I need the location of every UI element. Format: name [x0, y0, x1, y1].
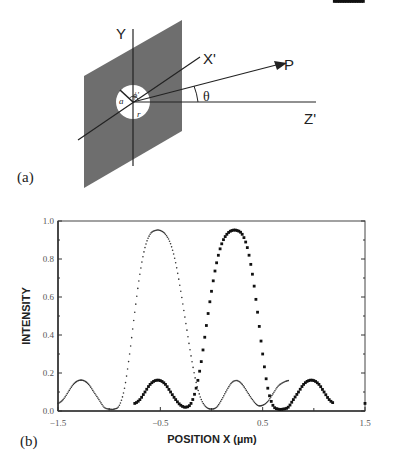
thin-series-point: [166, 235, 168, 237]
thick-series-point: [168, 388, 171, 391]
thin-series-point: [126, 375, 128, 377]
thin-series-point: [128, 361, 130, 363]
thin-series-point: [180, 291, 182, 293]
thick-series-point: [220, 242, 223, 245]
thick-series-point: [290, 401, 293, 404]
thin-series-point: [145, 243, 147, 245]
thin-series-point: [287, 380, 289, 382]
thick-series-point: [263, 365, 266, 368]
thick-series-point: [270, 400, 273, 403]
thin-series-point: [248, 393, 250, 395]
x-tick-label: −1.5: [50, 418, 67, 428]
thin-series-point: [168, 238, 170, 240]
thin-series-point: [147, 237, 149, 239]
thin-series-point: [135, 303, 137, 305]
thin-series-point: [218, 404, 220, 406]
thin-series-point: [203, 403, 205, 405]
thin-series-point: [146, 240, 148, 242]
thick-series-point: [190, 402, 193, 405]
x-tick-label: 1.5: [359, 418, 371, 428]
thin-series-point: [136, 295, 138, 297]
thick-series-point: [243, 236, 246, 239]
thin-series-point: [182, 303, 184, 305]
thin-series-point: [68, 390, 70, 392]
thick-series-point: [258, 325, 261, 328]
tick-labels: 0.00.20.40.60.81.0−1.5−0.50.51.5: [43, 216, 371, 428]
thin-series-point: [95, 394, 97, 396]
thick-series-point: [253, 285, 256, 288]
thin-series-point: [89, 385, 91, 387]
thin-series-point: [189, 349, 191, 351]
thick-series-point: [319, 385, 322, 388]
thin-series-point: [254, 401, 256, 403]
thick-series-point: [144, 391, 147, 394]
thin-series-point: [141, 261, 143, 263]
thick-series-point: [140, 396, 143, 399]
r-label: r: [137, 109, 141, 119]
thick-series-point: [323, 391, 326, 394]
x-tick-label: 0.5: [257, 418, 269, 428]
thin-series-point: [170, 243, 172, 245]
thick-series-point: [295, 393, 298, 396]
thick-series-point: [364, 402, 367, 405]
thick-series-point: [215, 261, 218, 264]
thin-series-point: [252, 399, 254, 401]
thick-series-point: [244, 241, 247, 244]
thin-series-point: [229, 384, 231, 386]
x-prime-label: X': [203, 50, 216, 67]
thin-series-point: [140, 267, 142, 269]
thin-series-point: [173, 253, 175, 255]
thin-series-point: [90, 386, 92, 388]
thin-series-point: [244, 388, 246, 390]
thick-series-point: [297, 391, 300, 394]
thin-series-point: [200, 399, 202, 401]
thin-series-point: [179, 284, 181, 286]
thin-series-point: [227, 388, 229, 390]
thin-series-point: [133, 320, 135, 322]
thin-series-point: [63, 398, 65, 400]
thin-series-point: [186, 329, 188, 331]
thin-series-point: [242, 385, 244, 387]
thin-series-point: [65, 394, 67, 396]
thin-series-point: [187, 336, 189, 338]
thin-series-point: [125, 382, 127, 384]
thick-series-point: [249, 263, 252, 266]
thin-series-point: [185, 323, 187, 325]
thick-series-point: [246, 246, 249, 249]
y-tick-label: 0.6: [43, 292, 55, 302]
thick-series-point: [208, 300, 211, 303]
thick-series-point: [205, 324, 208, 327]
thin-series-point: [219, 402, 221, 404]
thin-series-point: [251, 397, 253, 399]
thin-series-point: [220, 401, 222, 403]
thick-series-point: [289, 404, 292, 407]
thick-series-point: [362, 0, 365, 3]
thin-series-point: [269, 398, 271, 400]
thick-series-point: [265, 377, 268, 380]
thin-series-point: [98, 399, 100, 401]
thin-series-point: [176, 267, 178, 269]
thick-series-point: [324, 393, 327, 396]
thin-series-point: [94, 393, 96, 395]
thin-series-point: [93, 391, 95, 393]
thick-series-point: [261, 353, 264, 356]
thin-series-point: [99, 400, 101, 402]
thin-series-point: [101, 404, 103, 406]
thin-series-point: [177, 273, 179, 275]
y-tick-label: 0.4: [43, 330, 55, 340]
thin-series-point: [183, 310, 185, 312]
thick-series-point: [299, 388, 302, 391]
thin-series-point: [121, 399, 123, 401]
thick-series-point: [214, 270, 217, 273]
thick-series-point: [248, 254, 251, 257]
thin-series-point: [92, 390, 94, 392]
y-tick-label: 0.8: [43, 254, 55, 264]
thick-series-point: [198, 370, 201, 373]
thin-series-point: [222, 397, 224, 399]
figure: Y X' P θ Z' ϕ' a r (a) 0.00.20.40.60.81.…: [0, 0, 405, 469]
phi-label: ϕ': [133, 91, 139, 100]
thick-series-point: [256, 311, 259, 314]
thin-series-point: [192, 367, 194, 369]
thin-series-point: [201, 401, 203, 403]
panel-b-label: (b): [20, 433, 38, 450]
